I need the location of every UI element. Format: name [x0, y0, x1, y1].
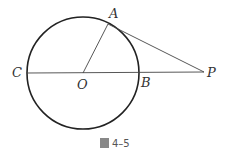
label-o: O — [77, 77, 88, 92]
label-a: A — [108, 6, 118, 21]
label-c: C — [12, 65, 22, 80]
line-cp — [27, 72, 204, 73]
geometry-diagram: A B C O P 4–5 — [0, 0, 227, 157]
label-p: P — [206, 65, 216, 80]
label-b: B — [140, 75, 151, 90]
radius-oa — [83, 24, 108, 73]
figure-caption-number: 4–5 — [112, 138, 130, 149]
caption-figure-char-box — [100, 138, 109, 148]
tangent-ap — [108, 24, 204, 72]
